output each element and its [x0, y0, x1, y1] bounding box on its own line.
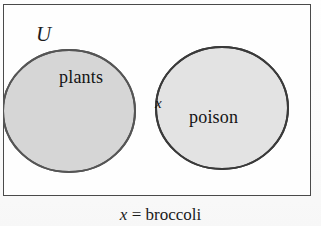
caption-variable: x: [120, 205, 128, 224]
set-label-plants: plants: [59, 68, 103, 86]
intersection-element-label: x: [155, 96, 162, 111]
venn-diagram-figure: U plants poison x x = broccoli: [0, 0, 321, 226]
set-label-poison: poison: [189, 108, 238, 126]
figure-caption: x = broccoli: [0, 206, 321, 223]
universal-set-label: U: [36, 24, 51, 45]
caption-relation: =: [132, 205, 142, 224]
caption-value: broccoli: [145, 205, 201, 224]
